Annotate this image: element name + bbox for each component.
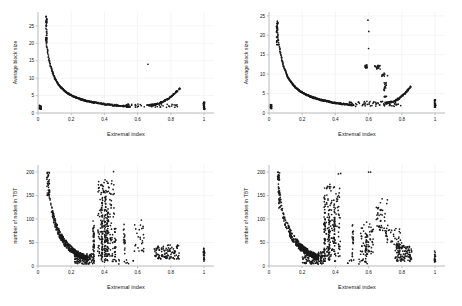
x-tick-label: 0.4: [332, 117, 339, 122]
y-tick-label: 5: [31, 93, 34, 98]
x-tick-label: 0: [268, 117, 271, 122]
y-tick-label: 100: [257, 217, 265, 222]
y-tick-label: 20: [260, 33, 266, 38]
x-tick-label: 0.2: [68, 270, 75, 275]
y-tick-label: 15: [29, 58, 35, 63]
x-tick-label: 0.6: [365, 270, 372, 275]
y-tick-label: 0: [31, 111, 34, 116]
data-points: [46, 171, 205, 265]
x-axis-label-bottom-right: Extremal index: [269, 284, 445, 290]
y-tick-label: 200: [26, 170, 34, 175]
x-tick-label: 1: [203, 117, 206, 122]
data-points: [269, 19, 436, 109]
y-axis-label-bottom-left: number of nodes in TBT: [12, 165, 18, 266]
x-tick-label: 0.8: [399, 117, 406, 122]
panel-bottom-left: 00.20.40.60.81050100150200 number of nod…: [0, 153, 231, 306]
x-axis-label-top-left: Extremal index: [38, 131, 214, 137]
y-tick-label: 10: [29, 76, 35, 81]
x-tick-label: 0.2: [299, 117, 306, 122]
x-tick-label: 0.2: [68, 117, 75, 122]
y-tick-label: 150: [257, 193, 265, 198]
y-tick-label: 200: [257, 170, 265, 175]
x-axis-label-bottom-left: Extremal index: [38, 284, 214, 290]
x-tick-label: 0.4: [101, 117, 108, 122]
panel-top-right-inner: 00.20.40.60.810510152025 Average block s…: [231, 0, 462, 153]
x-tick-label: 0: [37, 270, 40, 275]
y-axis-label-bottom-right: number of nodes in TBT: [243, 165, 249, 266]
y-tick-label: 25: [29, 24, 35, 29]
y-tick-label: 50: [29, 240, 35, 245]
x-tick-label: 1: [203, 270, 206, 275]
y-tick-label: 150: [26, 193, 34, 198]
x-tick-label: 1: [434, 117, 437, 122]
y-tick-label: 0: [31, 264, 34, 269]
x-tick-label: 0.6: [365, 117, 372, 122]
x-tick-label: 0.8: [168, 270, 175, 275]
panel-top-right: 00.20.40.60.810510152025 Average block s…: [231, 0, 462, 153]
x-tick-label: 0.4: [101, 270, 108, 275]
panel-top-left-inner: 00.20.40.60.810510152025 Average block s…: [0, 0, 231, 153]
y-tick-label: 0: [262, 264, 265, 269]
y-tick-label: 100: [26, 217, 34, 222]
x-tick-label: 0.8: [168, 117, 175, 122]
figure-four-panel-scatter-grid: 00.20.40.60.810510152025 Average block s…: [0, 0, 462, 306]
x-tick-label: 0.4: [332, 270, 339, 275]
y-tick-label: 15: [260, 52, 266, 57]
x-tick-label: 0: [37, 117, 40, 122]
x-tick-label: 1: [434, 270, 437, 275]
y-tick-label: 5: [262, 91, 265, 96]
panel-bottom-right-inner: 00.20.40.60.81050100150200 number of nod…: [231, 153, 462, 306]
y-tick-label: 25: [260, 14, 266, 19]
y-tick-label: 20: [29, 41, 35, 46]
y-axis-label-top-left: Average block size: [12, 12, 18, 113]
x-tick-label: 0.8: [399, 270, 406, 275]
y-tick-label: 0: [262, 111, 265, 116]
panel-bottom-left-inner: 00.20.40.60.81050100150200 number of nod…: [0, 153, 231, 306]
x-tick-label: 0: [268, 270, 271, 275]
x-tick-label: 0.2: [299, 270, 306, 275]
panel-top-left: 00.20.40.60.810510152025 Average block s…: [0, 0, 231, 153]
x-axis-label-top-right: Extremal index: [269, 131, 445, 137]
y-axis-label-top-right: Average block size: [243, 12, 249, 113]
data-points: [277, 171, 437, 265]
y-tick-label: 10: [260, 72, 266, 77]
x-tick-label: 0.6: [134, 117, 141, 122]
x-tick-label: 0.6: [134, 270, 141, 275]
y-tick-label: 50: [260, 240, 266, 245]
data-points: [38, 16, 205, 111]
panel-bottom-right: 00.20.40.60.81050100150200 number of nod…: [231, 153, 462, 306]
